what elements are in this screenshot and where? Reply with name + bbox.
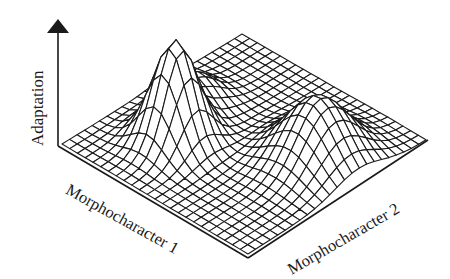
z-axis-arrow-icon (47, 19, 69, 33)
fitness-landscape-figure (0, 0, 450, 279)
z-axis-label: Adaptation (28, 70, 48, 146)
